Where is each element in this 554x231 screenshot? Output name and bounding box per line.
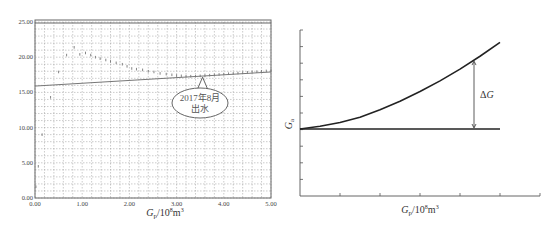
x-tick-label: 4.00 — [218, 200, 229, 207]
left-tick-labels: 0.005.0010.0015.0020.0025.000.001.002.00… — [18, 18, 276, 207]
left-data-series — [35, 46, 271, 188]
left-plot-frame — [35, 20, 271, 198]
callout-pointer — [198, 77, 208, 89]
callout-text-line1: 2017年8月 — [180, 92, 221, 103]
curve — [300, 42, 500, 129]
callout-annotation: 2017年8月出水 — [172, 77, 228, 118]
y-tick-label: 5.00 — [22, 159, 33, 166]
y-tick-label: 20.00 — [18, 53, 33, 60]
x-tick-label: 3.00 — [171, 200, 182, 207]
trend-line — [35, 72, 271, 86]
left-x-axis-title: Gp/108m3 — [146, 207, 183, 220]
callout-text-line2: 出水 — [191, 103, 209, 114]
delta-g-label: ΔG — [480, 89, 494, 100]
right-data-series — [300, 42, 500, 129]
x-tick-label: 2.00 — [124, 200, 135, 207]
y-tick-label: 15.00 — [18, 88, 33, 95]
y-tick-label: 10.00 — [18, 124, 33, 131]
arrow-up-icon — [472, 61, 476, 65]
arrow-down-icon — [472, 124, 476, 128]
x-tick-label: 1.00 — [77, 200, 88, 207]
right-x-axis-title: Gp/108m3 — [401, 204, 438, 217]
x-tick-label: 0.00 — [29, 200, 40, 207]
y-tick-label: 25.00 — [18, 18, 33, 25]
x-tick-label: 5.00 — [265, 200, 276, 207]
right-y-axis-title: Ga — [283, 118, 296, 129]
delta-g-annotation: ΔG — [472, 61, 494, 128]
left-grid — [35, 22, 271, 198]
left-chart: 0.005.0010.0015.0020.0025.000.001.002.00… — [0, 0, 280, 231]
right-axes — [300, 30, 540, 196]
left-axes — [35, 20, 271, 198]
